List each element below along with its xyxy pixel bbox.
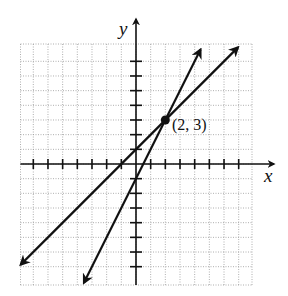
line-1 [21,47,238,264]
line-2 [84,50,201,283]
y-axis-label: y [117,18,128,39]
x-axis-label: x [263,165,273,186]
plotted-lines [21,47,238,282]
coordinate-graph: y x (2, 3) [0,0,288,296]
points [161,115,170,124]
intersection-point [161,115,170,124]
axes [21,19,275,285]
intersection-label: (2, 3) [172,116,207,134]
